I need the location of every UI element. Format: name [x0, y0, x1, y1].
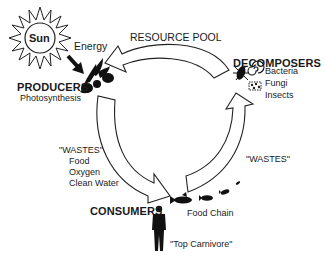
decomposer-item: Fungi — [265, 77, 298, 89]
producer-wastes-item: Clean Water — [59, 178, 119, 189]
consumers-heading: CONSUMERS — [90, 205, 162, 217]
producers-heading: PRODUCERS — [17, 81, 88, 93]
resource-pool-arrow — [105, 44, 229, 78]
sun-label: Sun — [29, 32, 50, 44]
decomposer-item: Bacteria — [265, 65, 298, 77]
food-chain-label: Food Chain — [187, 208, 234, 218]
producer-wastes: "WASTES" Food Oxygen Clean Water — [59, 145, 119, 189]
fungi-icon — [249, 82, 261, 90]
arrow-down-right-icon — [68, 56, 84, 74]
producer-wastes-item: Oxygen — [59, 167, 119, 178]
consumer-wastes-label: "WASTES" — [246, 154, 290, 164]
top-carnivore-label: "Top Carnivore" — [170, 239, 232, 249]
producer-wastes-heading: "WASTES" — [59, 145, 119, 156]
decomposers-list: Bacteria Fungi Insects — [265, 65, 298, 101]
producer-wastes-item: Food — [59, 156, 119, 167]
producers-subtitle: Photosynthesis — [20, 93, 81, 103]
fish-small-icon — [219, 188, 230, 195]
fish-tiny-icon — [235, 181, 240, 186]
consumers-to-decomposers-arrow — [186, 93, 253, 192]
fish-medium-icon — [199, 195, 213, 201]
fish-large-icon — [170, 192, 192, 204]
decomposer-item: Insects — [265, 89, 298, 101]
energy-label: Energy — [74, 40, 107, 52]
resource-pool-label: RESOURCE POOL — [130, 31, 222, 43]
